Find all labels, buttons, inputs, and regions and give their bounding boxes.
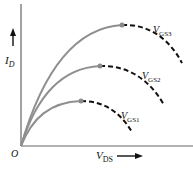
right-arrow-icon	[117, 153, 143, 159]
saturation-point-vgs1	[79, 99, 84, 104]
saturation-point-vgs2	[98, 64, 103, 69]
y-axis-label: ID	[4, 54, 15, 69]
x-axis-label: VDS	[96, 149, 113, 164]
curve-label-vgs3: VGS3	[153, 24, 172, 38]
curve-vgs3	[21, 23, 182, 147]
origin-label: O	[11, 148, 18, 159]
saturation-point-vgs3	[120, 23, 125, 28]
up-arrow-icon	[10, 28, 16, 46]
mosfet-output-characteristics: ID O VDS VGS3 VGS2 VGS1	[0, 0, 193, 172]
